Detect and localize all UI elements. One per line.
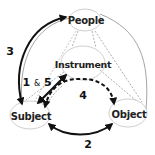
node-instrument-label: Instrument (55, 59, 112, 70)
node-subject-label: Subject (11, 111, 51, 122)
edge-label-5: 5 (44, 76, 52, 89)
dashed-people-instrument-right (92, 31, 96, 48)
dashed-people-instrument-left (72, 31, 78, 47)
node-people-label: People (68, 15, 105, 26)
edge-label-2: 2 (84, 138, 92, 151)
edge-label-1-and-5: 1 & 5 (22, 76, 51, 89)
activity-theory-diagram: People Instrument Subject Object 3 1 & 5… (0, 0, 155, 155)
arrow-2-subject-object (49, 124, 112, 135)
edge-label-4: 4 (79, 89, 87, 102)
dashed-instrument-object (100, 70, 140, 104)
edge-label-3: 3 (6, 45, 14, 58)
edge-label-amp: & (34, 79, 40, 88)
node-object-label: Object (112, 109, 147, 120)
edge-label-1: 1 (22, 76, 30, 89)
